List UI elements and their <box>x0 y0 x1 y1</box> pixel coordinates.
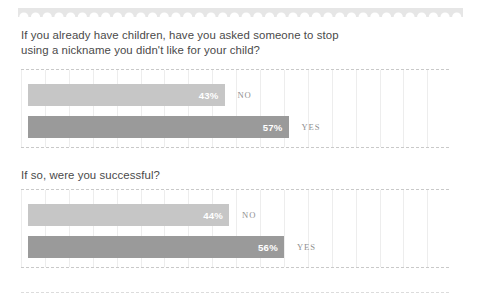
scalloped-top-border <box>18 8 463 17</box>
bar-no-1: 43% <box>28 84 225 106</box>
bars-container-2: 44% NO 56% YES <box>21 190 449 267</box>
bar-chart-panel-2: 44% NO 56% YES <box>21 189 449 268</box>
bar-value-label: 57% <box>263 122 283 133</box>
bar-value-label: 43% <box>199 90 219 101</box>
bar-category-label: YES <box>297 242 316 252</box>
bar-value-label: 56% <box>258 242 278 253</box>
bar-row: 44% NO <box>28 204 256 226</box>
bar-row: 57% YES <box>28 116 320 138</box>
bar-chart-panel-1: 43% NO 57% YES <box>21 69 449 148</box>
page-title: If you already have children, have you a… <box>21 28 361 58</box>
bar-row: 56% YES <box>28 236 316 258</box>
bar-category-label: YES <box>302 122 321 132</box>
section-title-2: If so, were you successful? <box>21 168 361 183</box>
bar-category-label: NO <box>242 210 256 220</box>
bar-value-label: 44% <box>203 210 223 221</box>
scallop-shape-icon <box>18 8 463 17</box>
bar-row: 43% NO <box>28 84 252 106</box>
bars-container-1: 43% NO 57% YES <box>21 70 449 147</box>
bar-yes-1: 57% <box>28 116 289 138</box>
bar-no-2: 44% <box>28 204 229 226</box>
bottom-dashed-rule <box>21 292 449 293</box>
bar-category-label: NO <box>238 90 252 100</box>
bar-yes-2: 56% <box>28 236 284 258</box>
